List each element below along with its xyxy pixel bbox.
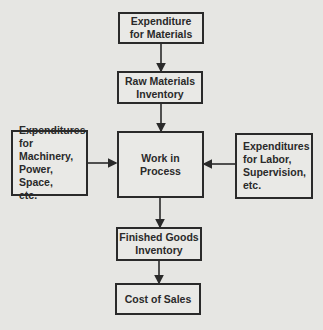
node-finished-goods-inventory: Finished Goods Inventory <box>116 227 202 261</box>
node-raw-materials-inventory: Raw Materials Inventory <box>117 71 203 104</box>
node-label: Expenditures for Labor, Supervision, etc… <box>243 140 310 192</box>
node-work-in-process: Work in Process <box>117 131 204 198</box>
node-label: Expenditure for Materials <box>130 15 192 41</box>
node-expenditures-machinery: Expenditures for Machinery, Power, Space… <box>11 130 88 196</box>
node-label: Cost of Sales <box>125 293 192 306</box>
node-label: Raw Materials Inventory <box>125 75 195 101</box>
node-expenditure-materials: Expenditure for Materials <box>118 12 204 44</box>
node-cost-of-sales: Cost of Sales <box>115 283 201 315</box>
node-label: Finished Goods Inventory <box>119 231 198 257</box>
node-expenditures-labor: Expenditures for Labor, Supervision, etc… <box>235 133 313 199</box>
node-label: Expenditures for Machinery, Power, Space… <box>19 124 86 202</box>
node-label: Work in Process <box>140 152 181 178</box>
